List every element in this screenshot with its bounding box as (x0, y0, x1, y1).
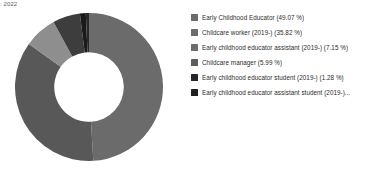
legend-item-label: Childcare worker (2019-) (35.82 %) (202, 25, 302, 40)
donut-chart-area (15, 13, 163, 181)
legend-swatch-icon (191, 14, 198, 21)
legend-item-label: Early childhood educator assistant stude… (202, 85, 350, 100)
legend-item[interactable]: Early childhood educator student (2019-)… (191, 70, 370, 85)
donut-slice-group (15, 13, 163, 161)
chart-caption: : 2022 (0, 0, 17, 8)
legend-swatch-icon (191, 59, 198, 66)
legend-item[interactable]: Childcare worker (2019-) (35.82 %) (191, 25, 370, 40)
donut-chart (15, 13, 163, 161)
chart-legend: Early Childhood Educator (49.07 %)Childc… (191, 10, 370, 100)
legend-item-label: Childcare manager (5.99 %) (202, 55, 282, 70)
donut-chart-svg (15, 13, 163, 161)
legend-item[interactable]: Early childhood educator assistant stude… (191, 85, 370, 100)
legend-item-label: Early childhood educator assistant (2019… (202, 40, 348, 55)
legend-swatch-icon (191, 44, 198, 51)
donut-slice[interactable] (89, 13, 163, 161)
legend-swatch-icon (191, 29, 198, 36)
legend-item[interactable]: Early childhood educator assistant (2019… (191, 40, 370, 55)
legend-swatch-icon (191, 74, 198, 81)
legend-item[interactable]: Childcare manager (5.99 %) (191, 55, 370, 70)
legend-item-label: Early childhood educator student (2019-)… (202, 70, 344, 85)
legend-swatch-icon (191, 89, 198, 96)
chart-page: : 2022 Early Childhood Educator (49.07 %… (0, 0, 370, 181)
legend-item[interactable]: Early Childhood Educator (49.07 %) (191, 10, 370, 25)
legend-item-label: Early Childhood Educator (49.07 %) (202, 10, 304, 25)
